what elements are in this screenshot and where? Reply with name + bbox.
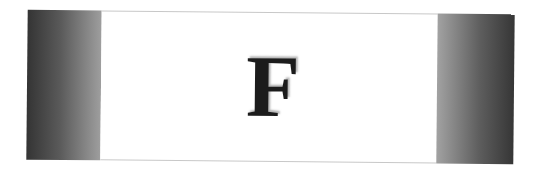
left-gradient-panel [26, 10, 101, 161]
right-gradient-panel [436, 14, 514, 165]
letter-card: F [26, 10, 514, 165]
letter-area: F [100, 10, 437, 163]
letter-glyph: F [101, 41, 438, 132]
